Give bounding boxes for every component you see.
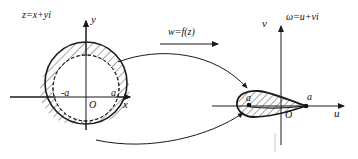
z-plane-label: z=x+yi	[22, 10, 51, 20]
diagram-canvas	[0, 0, 358, 159]
w-point-a-dot	[304, 104, 309, 109]
upper-mapping-arrow	[118, 54, 247, 88]
w-plane-label: ω=u+vi	[286, 12, 319, 22]
lower-mapping-arrow	[96, 113, 243, 144]
conformal-mapping-figure: z=x+yi y x -a a O w=f(z) ω=u+vi v u a a …	[0, 0, 358, 159]
z-point-a-label: a	[111, 88, 116, 98]
z-axis-y-label: y	[91, 14, 96, 25]
w-plane-group	[212, 26, 344, 145]
w-origin-label: O	[285, 110, 292, 120]
z-origin-label: O	[89, 100, 96, 110]
z-axis-x-label: x	[123, 99, 128, 110]
w-axis-v-label: v	[262, 18, 267, 29]
w-point-neg-a-label: a	[246, 93, 251, 103]
z-point-neg-a-label: -a	[61, 88, 69, 98]
w-axis-u-label: u	[334, 108, 340, 119]
mapping-operator-label: w=f(z)	[168, 27, 195, 37]
z-plane-group	[10, 21, 130, 130]
w-point-a-label: a	[307, 92, 312, 102]
w-point-neg-a-dot	[247, 103, 252, 108]
